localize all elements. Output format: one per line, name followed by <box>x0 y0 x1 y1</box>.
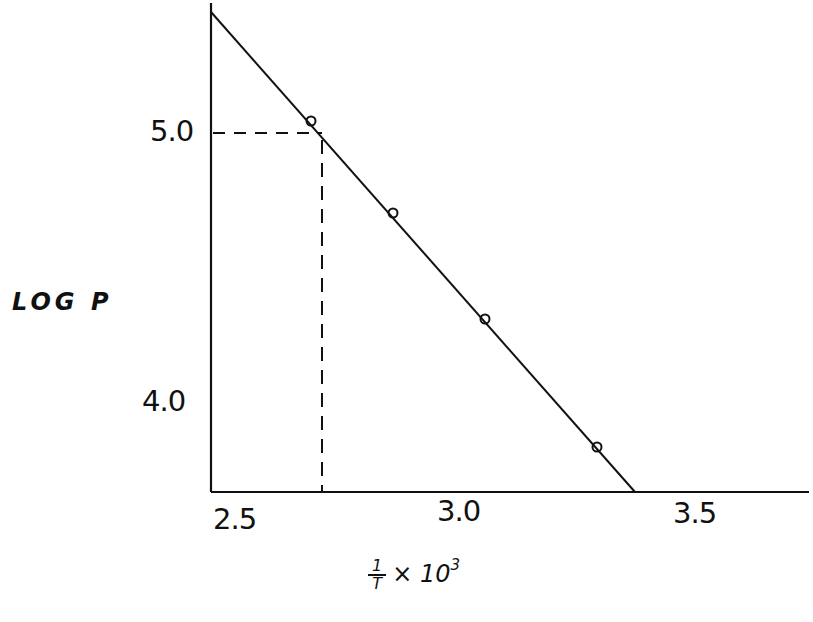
x-tick-2-5: 2.5 <box>213 502 256 536</box>
x-axis-exponent: 3 <box>450 556 460 574</box>
x-axis-multiplier: × 10 <box>392 560 450 588</box>
x-tick-3-0: 3.0 <box>437 494 480 528</box>
x-tick-3-5: 3.5 <box>673 496 716 530</box>
x-axis-label: 1 T × 103 <box>368 556 460 592</box>
y-tick-5: 5.0 <box>150 114 193 148</box>
x-axis-fraction: 1 T <box>368 558 386 592</box>
y-axis-label: LOG P <box>12 288 112 316</box>
data-points <box>307 117 602 452</box>
fraction-denominator: T <box>368 576 386 592</box>
fit-line <box>211 12 635 492</box>
y-tick-4: 4.0 <box>142 384 185 418</box>
